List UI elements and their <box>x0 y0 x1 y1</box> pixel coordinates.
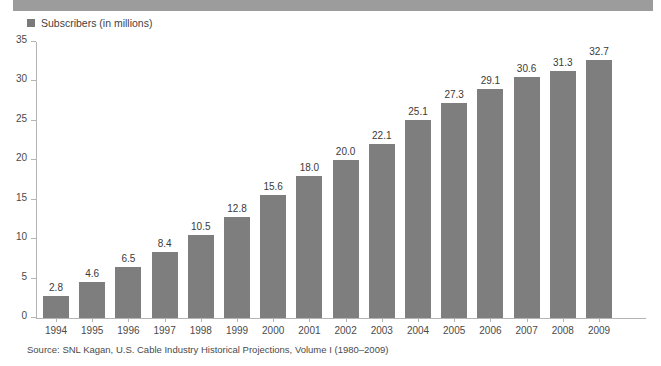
x-axis-label: 1998 <box>181 325 221 336</box>
bar-value-label: 27.3 <box>444 89 463 100</box>
x-axis-label: 1995 <box>72 325 112 336</box>
x-axis-tick <box>237 318 238 322</box>
bar: 12.8 <box>224 217 250 318</box>
x-axis-label: 1994 <box>36 325 76 336</box>
y-axis-tick: 5 <box>31 278 36 279</box>
bar: 22.1 <box>369 144 395 318</box>
bar: 2.8 <box>43 296 69 318</box>
y-axis-tick-label: 5 <box>21 271 27 282</box>
y-axis-tick-label: 30 <box>16 73 27 84</box>
bar: 6.5 <box>115 267 141 318</box>
bar: 32.7 <box>586 60 612 318</box>
bar-value-label: 30.6 <box>517 63 536 74</box>
x-axis-label: 2003 <box>362 325 402 336</box>
y-axis-tick-label: 25 <box>16 113 27 124</box>
chart-legend: Subscribers (in millions) <box>27 17 152 29</box>
bar: 20.0 <box>333 160 359 318</box>
x-axis-label: 2009 <box>579 325 619 336</box>
x-axis-label: 2007 <box>507 325 547 336</box>
x-axis-tick <box>56 318 57 322</box>
x-axis-label: 2006 <box>470 325 510 336</box>
x-axis-tick <box>273 318 274 322</box>
x-axis-tick <box>92 318 93 322</box>
bar-value-label: 15.6 <box>263 181 282 192</box>
x-axis-tick <box>563 318 564 322</box>
x-axis-tick <box>527 318 528 322</box>
x-axis-tick <box>490 318 491 322</box>
bar: 8.4 <box>152 252 178 318</box>
y-axis-tick-label: 15 <box>16 192 27 203</box>
y-axis-tick: 15 <box>31 199 36 200</box>
bar: 18.0 <box>296 176 322 318</box>
y-axis-tick: 30 <box>31 80 36 81</box>
y-axis-tick-label: 10 <box>16 231 27 242</box>
x-axis-label: 1997 <box>145 325 185 336</box>
bar-value-label: 10.5 <box>191 221 210 232</box>
bar-value-label: 8.4 <box>158 238 172 249</box>
bar: 10.5 <box>188 235 214 318</box>
bar: 29.1 <box>477 89 503 318</box>
x-axis-label: 1999 <box>217 325 257 336</box>
square-marker-icon <box>27 19 35 27</box>
bar-value-label: 32.7 <box>589 46 608 57</box>
bar-value-label: 18.0 <box>300 162 319 173</box>
y-axis-line <box>36 42 37 319</box>
bar-value-label: 31.3 <box>553 57 572 68</box>
x-axis-label: 2005 <box>434 325 474 336</box>
bar: 31.3 <box>550 71 576 318</box>
x-axis-tick <box>165 318 166 322</box>
title-band <box>13 0 653 11</box>
bar: 30.6 <box>514 77 540 318</box>
x-axis-tick <box>309 318 310 322</box>
x-axis-label: 2001 <box>289 325 329 336</box>
x-axis-tick <box>599 318 600 322</box>
x-axis-tick <box>346 318 347 322</box>
bar-value-label: 29.1 <box>481 75 500 86</box>
bar-value-label: 4.6 <box>85 268 99 279</box>
bar-value-label: 20.0 <box>336 146 355 157</box>
bar-value-label: 22.1 <box>372 130 391 141</box>
bar: 15.6 <box>260 195 286 318</box>
chart-figure: Subscribers (in millions) 05101520253035… <box>0 0 661 366</box>
bar-value-label: 25.1 <box>408 106 427 117</box>
bar-value-label: 6.5 <box>121 253 135 264</box>
legend-label: Subscribers (in millions) <box>41 18 152 29</box>
x-axis-tick <box>454 318 455 322</box>
x-axis-label: 2002 <box>326 325 366 336</box>
y-axis-tick: 0 <box>31 317 36 318</box>
x-axis-label: 1996 <box>108 325 148 336</box>
y-axis-tick: 20 <box>31 159 36 160</box>
y-axis-tick-label: 0 <box>21 310 27 321</box>
y-axis-tick: 10 <box>31 238 36 239</box>
x-axis-tick <box>128 318 129 322</box>
x-axis-tick <box>201 318 202 322</box>
x-axis-tick <box>418 318 419 322</box>
y-axis-tick-label: 35 <box>16 34 27 45</box>
bar: 25.1 <box>405 120 431 318</box>
bar-value-label: 12.8 <box>227 203 246 214</box>
plot-area: 05101520253035 2.84.66.58.410.512.815.61… <box>36 42 646 318</box>
x-axis-label: 2004 <box>398 325 438 336</box>
y-axis-tick-label: 20 <box>16 152 27 163</box>
x-axis-tick <box>382 318 383 322</box>
bar: 27.3 <box>441 103 467 318</box>
bar-value-label: 2.8 <box>49 282 63 293</box>
bar: 4.6 <box>79 282 105 318</box>
source-note: Source: SNL Kagan, U.S. Cable Industry H… <box>27 344 388 355</box>
x-axis-label: 2000 <box>253 325 293 336</box>
y-axis-tick: 35 <box>31 41 36 42</box>
y-axis-tick: 25 <box>31 120 36 121</box>
x-axis-label: 2008 <box>543 325 583 336</box>
